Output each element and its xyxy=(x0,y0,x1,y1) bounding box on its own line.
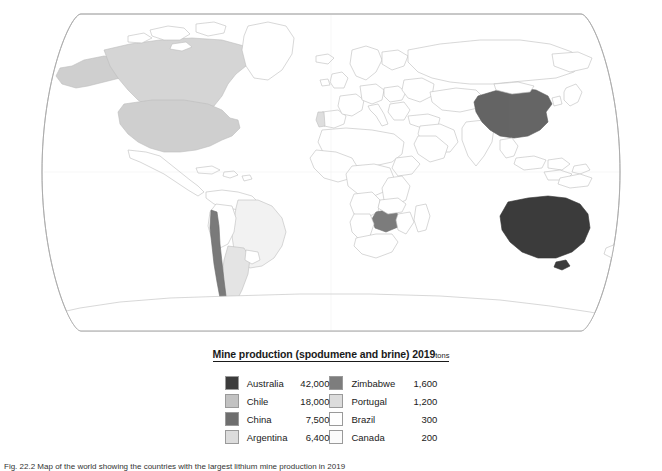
legend-value-australia: 42,000 xyxy=(287,374,329,392)
legend-swatch-cell xyxy=(329,428,351,446)
legend-label-portugal: Portugal xyxy=(351,392,395,410)
legend-swatch-brazil xyxy=(329,412,343,426)
legend-label-canada: Canada xyxy=(351,428,395,446)
legend-table: Australia 42,000 Zimbabwe 1,600 Chile 18… xyxy=(225,374,438,446)
legend-row: Argentina 6,400 Canada 200 xyxy=(225,428,438,446)
figure-caption: Fig. 22.2 Map of the world showing the c… xyxy=(4,462,658,471)
legend-label-china: China xyxy=(247,410,288,428)
legend-label-brazil: Brazil xyxy=(351,410,395,428)
legend-swatch-australia xyxy=(225,376,239,390)
legend-swatch-portugal xyxy=(329,394,343,408)
legend-value-chile: 18,000 xyxy=(287,392,329,410)
legend-label-argentina: Argentina xyxy=(247,428,288,446)
legend-units: tons xyxy=(435,351,449,360)
legend-value-brazil: 300 xyxy=(395,410,437,428)
legend-row: Australia 42,000 Zimbabwe 1,600 xyxy=(225,374,438,392)
legend-title: Mine production (spodumene and brine) 20… xyxy=(0,348,662,361)
legend-row: China 7,500 Brazil 300 xyxy=(225,410,438,428)
legend-swatch-canada xyxy=(329,430,343,444)
legend-swatch-cell xyxy=(225,428,247,446)
legend-value-zimbabwe: 1,600 xyxy=(395,374,437,392)
legend-row: Chile 18,000 Portugal 1,200 xyxy=(225,392,438,410)
legend-label-chile: Chile xyxy=(247,392,288,410)
legend-swatch-cell xyxy=(329,410,351,428)
legend-label-australia: Australia xyxy=(247,374,288,392)
legend-swatch-cell xyxy=(225,374,247,392)
legend-swatch-zimbabwe xyxy=(329,376,343,390)
legend-swatch-cell xyxy=(225,392,247,410)
legend-value-portugal: 1,200 xyxy=(395,392,437,410)
legend-value-canada: 200 xyxy=(395,428,437,446)
legend-swatch-cell xyxy=(329,392,351,410)
legend-swatch-china xyxy=(225,412,239,426)
world-map-figure xyxy=(0,0,662,345)
map-legend: Mine production (spodumene and brine) 20… xyxy=(0,348,662,446)
legend-swatch-argentina xyxy=(225,430,239,444)
legend-title-text: Mine production (spodumene and brine) 20… xyxy=(213,348,436,360)
legend-value-china: 7,500 xyxy=(287,410,329,428)
legend-swatch-chile xyxy=(225,394,239,408)
legend-label-zimbabwe: Zimbabwe xyxy=(351,374,395,392)
world-map-svg xyxy=(0,0,662,345)
legend-swatch-cell xyxy=(225,410,247,428)
legend-value-argentina: 6,400 xyxy=(287,428,329,446)
legend-swatch-cell xyxy=(329,374,351,392)
